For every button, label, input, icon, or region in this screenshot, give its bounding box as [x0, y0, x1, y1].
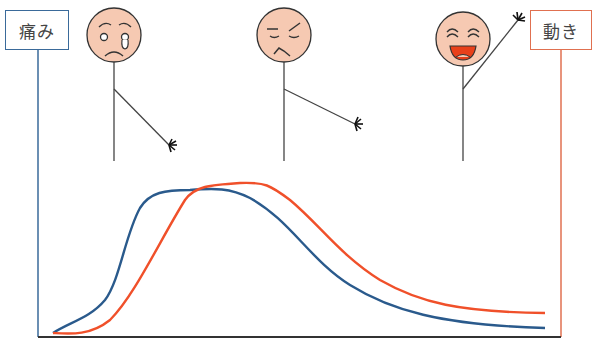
hand-icon — [355, 117, 363, 131]
crying-figure — [87, 8, 177, 161]
pain-curve — [53, 189, 545, 333]
frowning-figure — [257, 8, 363, 161]
hand-icon — [513, 12, 525, 21]
crying-face-icon — [87, 8, 141, 62]
frowning-face-icon — [257, 8, 311, 62]
laughing-figure — [436, 12, 525, 161]
hand-icon — [169, 139, 177, 152]
diagram-canvas — [0, 0, 598, 348]
motion-curve — [53, 183, 545, 334]
